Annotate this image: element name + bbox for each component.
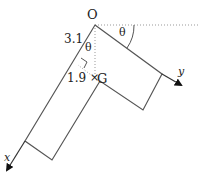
angle-top-label: θ — [119, 27, 126, 38]
axis-y-label: y — [178, 66, 184, 77]
length-a-label: 3.1 — [64, 33, 83, 45]
right-angle-marker — [81, 58, 87, 68]
angle-inner-label: θ — [85, 42, 92, 53]
centroid-label: G — [97, 72, 107, 85]
length-b-label: 1.9 — [67, 72, 86, 84]
axis-x-label: x — [4, 152, 10, 163]
l-shape-diagram — [0, 0, 202, 188]
angle-arc — [127, 25, 134, 48]
l-shape-outline — [25, 25, 162, 160]
origin-label: O — [87, 8, 98, 21]
